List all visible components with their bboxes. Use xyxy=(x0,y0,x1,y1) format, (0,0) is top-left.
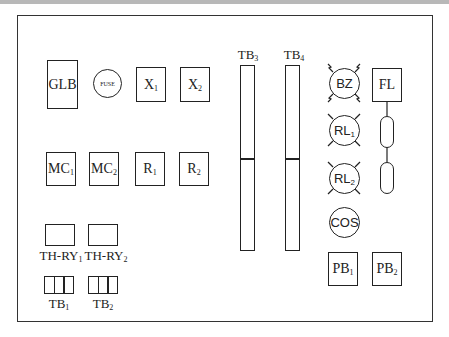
pb1-label: PB1 xyxy=(332,261,353,277)
pb1-sub: 1 xyxy=(350,268,354,277)
rl1-lamp: RL1 xyxy=(329,115,360,146)
rl2-lamp: RL2 xyxy=(329,163,360,194)
rl1-base: RL xyxy=(334,123,351,138)
bz-label: BZ xyxy=(336,76,353,91)
cos-label: COS xyxy=(330,215,358,230)
pb2-sub: 2 xyxy=(394,268,398,277)
pb2-label: PB2 xyxy=(376,261,397,277)
pb1-base: PB xyxy=(332,261,349,276)
rl2-base: RL xyxy=(334,171,351,186)
pb1-button: PB1 xyxy=(328,252,358,286)
pb2-button: PB2 xyxy=(372,252,402,286)
fl-tube-capsule xyxy=(380,162,394,194)
fl-label: FL xyxy=(379,77,395,93)
rl1-label: RL1 xyxy=(334,123,355,139)
bz-buzzer: BZ xyxy=(329,68,360,99)
fl-box: FL xyxy=(372,68,402,102)
rl2-label: RL2 xyxy=(334,171,355,187)
cos-switch: COS xyxy=(329,207,360,238)
rl1-sub: 1 xyxy=(351,130,355,139)
fl-tube-capsule xyxy=(380,116,394,148)
pb2-base: PB xyxy=(376,261,393,276)
rl2-sub: 2 xyxy=(351,178,355,187)
